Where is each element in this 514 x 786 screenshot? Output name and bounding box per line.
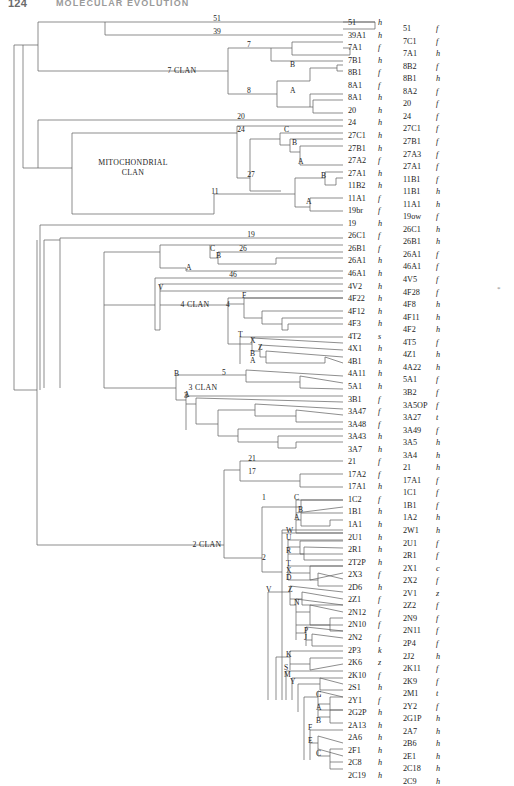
leaf-code: 4F2 [403, 325, 416, 334]
leaf-code: 2X3 [348, 570, 362, 579]
leaf-suffix: h [436, 438, 440, 447]
node-number-11: 11 [204, 187, 226, 196]
leaf-code: 4V2 [348, 282, 362, 291]
clan-label-4: 4 CLAN [168, 300, 222, 309]
leaf-code: 26B1 [403, 237, 421, 246]
node-number-4: 4 [220, 300, 236, 309]
leaf-suffix: f [436, 388, 438, 397]
leaf-suffix: f [436, 62, 438, 71]
leaf-code: 2A7 [403, 727, 417, 736]
leaf-suffix: k [378, 646, 382, 655]
node-letter-26A: A [186, 263, 191, 272]
leaf-suffix: f [436, 150, 438, 159]
leaf-suffix: f [436, 175, 438, 184]
leaf-code: 2K6 [348, 658, 362, 667]
leaf-suffix: h [378, 507, 382, 516]
leaf-code: 11B2 [348, 181, 365, 190]
leaf-suffix: f [436, 124, 438, 133]
leaf-suffix: f [436, 162, 438, 171]
node-number-21: 21 [242, 454, 262, 463]
leaf-code: 4X1 [348, 344, 362, 353]
leaf-suffix: f [378, 194, 380, 203]
leaf-code: 19 [348, 219, 356, 228]
leaf-code: 19br [348, 206, 363, 215]
leaf-code: 27C1 [403, 124, 421, 133]
leaf-suffix: h [436, 739, 440, 748]
node-number-2: 2 [256, 553, 272, 562]
leaf-suffix: f [436, 262, 438, 271]
leaf-suffix: h [378, 31, 382, 40]
leaf-code: 2N11 [403, 626, 421, 635]
leaf-suffix: f [436, 275, 438, 284]
leaf-code: 2E1 [403, 752, 416, 761]
node-letter-2F: F [308, 723, 312, 732]
leaf-suffix: h [378, 721, 382, 730]
leaf-suffix: z [436, 589, 439, 598]
leaf-suffix: h [436, 463, 440, 472]
leaf-code: 2N10 [348, 620, 366, 629]
node-letter-1A: A [294, 513, 299, 522]
leaf-code: 1A1 [348, 520, 362, 529]
leaf-code: 3A47 [348, 407, 366, 416]
leaf-suffix: h [436, 74, 440, 83]
leaf-suffix: f [378, 395, 380, 404]
leaf-suffix: h [436, 727, 440, 736]
leaf-code: 7B1 [348, 56, 362, 65]
node-letter-2K: K [286, 650, 291, 659]
node-letter-3A: A [184, 390, 189, 399]
leaf-suffix: f [436, 539, 438, 548]
leaf-suffix: h [436, 451, 440, 460]
leaf-code: 2W1 [403, 526, 419, 535]
node-letter-11B: B [321, 171, 326, 180]
leaf-code: 24 [348, 118, 356, 127]
leaf-suffix: h [436, 225, 440, 234]
leaf-code: 4A22 [403, 363, 421, 372]
leaf-suffix: f [436, 488, 438, 497]
leaf-code: 8A2 [403, 87, 417, 96]
leaf-suffix: h [378, 369, 382, 378]
leaf-code: 4A11 [348, 369, 366, 378]
node-number-46: 46 [222, 270, 244, 279]
node-number-51: 51 [206, 14, 228, 23]
leaf-suffix: f [378, 570, 380, 579]
node-letter-4T: T [238, 330, 243, 339]
leaf-code: 26B1 [348, 244, 366, 253]
leaf-suffix: f [378, 81, 380, 90]
leaf-code: 1B1 [348, 507, 362, 516]
leaf-suffix: h [378, 256, 382, 265]
node-number-39: 39 [206, 27, 228, 36]
leaf-code: 2P4 [403, 639, 416, 648]
leaf-suffix: h [378, 56, 382, 65]
leaf-suffix: h [436, 300, 440, 309]
leaf-code: 4F8 [403, 300, 416, 309]
leaf-suffix: h [436, 187, 440, 196]
leaf-suffix: h [378, 545, 382, 554]
leaf-suffix: f [378, 68, 380, 77]
leaf-suffix: h [378, 294, 382, 303]
leaf-code: 26A1 [403, 250, 421, 259]
node-number-17: 17 [242, 467, 262, 476]
node-letter-2R: R [286, 546, 291, 555]
leaf-suffix: f [436, 401, 438, 410]
leaf-code: 4F11 [403, 313, 420, 322]
leaf-suffix: f [436, 551, 438, 560]
leaf-suffix: f [378, 420, 380, 429]
leaf-code: 3A48 [348, 420, 366, 429]
node-number-19: 19 [240, 230, 262, 239]
leaf-code: 2N2 [348, 633, 362, 642]
leaf-code: 46A1 [348, 269, 366, 278]
leaf-suffix: f [436, 601, 438, 610]
node-letter-2D: D [286, 573, 291, 582]
leaf-code: 8A1 [348, 81, 362, 90]
node-letter-26B: B [216, 251, 221, 260]
leaf-suffix: f [378, 244, 380, 253]
clan-label-mitochondrial-line2: CLAN [68, 168, 198, 178]
leaf-code: 2A13 [348, 721, 366, 730]
node-letter-26C: C [210, 244, 215, 253]
leaf-suffix: h [436, 350, 440, 359]
leaf-code: 27C1 [348, 131, 366, 140]
leaf-code: 7A1 [348, 43, 362, 52]
leaf-code: 2N12 [348, 608, 366, 617]
leaf-suffix: f [436, 137, 438, 146]
leaf-code: 51 [403, 24, 411, 33]
